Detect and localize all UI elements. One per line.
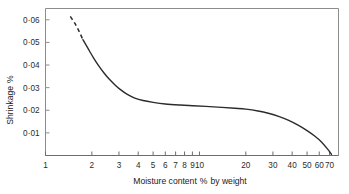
- y-tick-label: 0·05: [23, 38, 40, 47]
- svg-text:Shrinkage%: Shrinkage%: [5, 75, 15, 125]
- x-tick-label: 1: [43, 161, 48, 170]
- x-tick-label: 8: [182, 161, 187, 170]
- x-tick-label: 5: [151, 161, 156, 170]
- y-tick-label: 0·02: [23, 106, 40, 115]
- y-tick-label: 0·01: [23, 129, 40, 138]
- shrinkage-moisture-line-chart: 0·010·020·030·040·050·06 123456789102030…: [0, 0, 349, 194]
- y-axis-title-text: Shrinkage: [5, 86, 15, 125]
- x-tick-label: 10: [195, 161, 205, 170]
- x-tick-label: 4: [136, 161, 141, 170]
- y-axis-title-symbol: %: [5, 75, 15, 83]
- x-axis-title-prefix: Moisture content: [133, 176, 197, 186]
- x-tick-label: 30: [268, 161, 278, 170]
- x-axis-title-suffix: by weight: [210, 176, 247, 186]
- x-axis-title-symbol: %: [200, 176, 208, 186]
- x-tick-label: 50: [303, 161, 313, 170]
- x-tick-label: 6: [163, 161, 168, 170]
- x-tick-label: 2: [90, 161, 95, 170]
- svg-text:Moisture content%by weight: Moisture content%by weight: [133, 176, 247, 186]
- y-tick-label: 0·04: [23, 61, 40, 70]
- x-tick-label: 60: [315, 161, 325, 170]
- y-axis-title: Shrinkage%: [5, 75, 15, 125]
- x-tick-label: 7: [173, 161, 178, 170]
- x-tick-label: 20: [241, 161, 251, 170]
- x-axis-title: Moisture content%by weight: [133, 176, 247, 186]
- y-tick-label: 0·03: [23, 84, 40, 93]
- y-tick-label: 0·06: [23, 16, 40, 25]
- x-tick-label: 3: [117, 161, 122, 170]
- x-tick-label: 70: [325, 161, 335, 170]
- chart-figure: 0·010·020·030·040·050·06 123456789102030…: [0, 0, 349, 194]
- x-tick-label: 40: [288, 161, 298, 170]
